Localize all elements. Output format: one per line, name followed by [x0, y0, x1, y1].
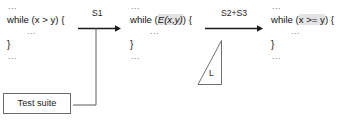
while-expression: x > y [35, 14, 56, 25]
code-ellipsis-bottom: ... [271, 52, 334, 65]
arrow-s2s3-label: S2+S3 [221, 9, 247, 18]
original-program-block: ... while (x > y) { ... } ... [7, 2, 64, 65]
diagram-canvas: ... while (x > y) { ... } ... ... while … [0, 0, 350, 120]
while-suffix: ) { [55, 14, 64, 25]
test-suite-box[interactable]: Test suite [3, 93, 71, 114]
while-prefix: while ( [7, 14, 35, 25]
code-ellipsis-body: ... [271, 27, 334, 40]
while-suffix: ) { [325, 14, 334, 25]
while-prefix: while ( [130, 14, 158, 25]
code-ellipsis-bottom: ... [7, 52, 64, 65]
code-while-statement: while (E(x,y)) { [130, 15, 192, 28]
while-expression: x >= y [299, 14, 325, 25]
while-prefix: while ( [271, 14, 299, 25]
triangle-label: L [209, 69, 214, 77]
while-suffix: ) { [183, 14, 192, 25]
loop-triangle-icon [195, 38, 229, 90]
code-ellipsis-body: ... [130, 27, 192, 40]
feedback-connector [70, 24, 110, 114]
code-ellipsis-bottom: ... [130, 52, 192, 65]
while-expression: E(x,y) [158, 14, 183, 25]
fixed-program-block: ... while (x >= y) { ... } ... [271, 2, 334, 65]
mutant-program-block: ... while (E(x,y)) { ... } ... [130, 2, 192, 65]
arrow-s1-label: S1 [92, 9, 103, 18]
code-while-statement: while (x >= y) { [271, 15, 334, 28]
test-suite-label: Test suite [18, 99, 57, 108]
code-ellipsis-body: ... [7, 27, 64, 40]
arrow-s2s3 [205, 22, 265, 36]
